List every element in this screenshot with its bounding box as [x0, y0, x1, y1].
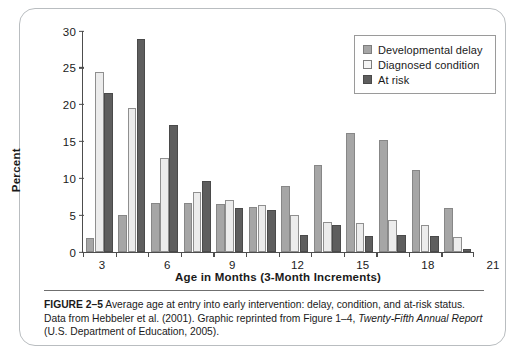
bar-group: 15 — [216, 31, 243, 252]
bar — [444, 208, 453, 252]
bar — [86, 238, 95, 252]
legend-swatch-icon — [363, 60, 372, 69]
bar — [463, 249, 472, 252]
bar — [323, 222, 332, 252]
bar — [128, 108, 137, 252]
bar — [314, 165, 323, 252]
x-axis-tick-mark — [246, 252, 247, 257]
figure-card: Percent 051015202530 3691215182124273033… — [19, 8, 506, 346]
legend-item: At risk — [363, 72, 483, 87]
x-axis-tick-mark — [279, 252, 280, 257]
bar — [249, 207, 258, 252]
bar — [160, 158, 169, 252]
bar — [365, 236, 374, 252]
bar — [137, 39, 146, 252]
legend-item-label: Developmental delay — [378, 44, 483, 56]
y-axis-tick: 25 — [21, 67, 83, 68]
bar — [118, 215, 127, 252]
y-axis-tick: 15 — [21, 141, 83, 142]
x-axis-tick-label: 18 — [421, 259, 434, 271]
bar — [453, 237, 462, 252]
y-axis-tick-label: 25 — [63, 62, 76, 74]
y-axis-tick: 30 — [21, 31, 83, 32]
y-axis-title: Percent — [10, 148, 22, 192]
bar — [421, 225, 430, 252]
bar — [300, 235, 309, 252]
bar — [332, 225, 341, 252]
bar — [169, 125, 178, 252]
bar-group: 21 — [281, 31, 308, 252]
x-axis-tick-label: 3 — [99, 259, 106, 271]
bar-group: 3 — [86, 31, 113, 252]
bar-group: 9 — [151, 31, 178, 252]
x-axis-tick-mark — [181, 252, 182, 257]
bar — [346, 133, 355, 252]
y-axis-tick: 5 — [21, 215, 83, 216]
legend-item: Diagnosed condition — [363, 57, 483, 72]
chart-legend: Developmental delayDiagnosed conditionAt… — [354, 35, 496, 94]
bar — [356, 223, 365, 252]
legend-swatch-icon — [363, 45, 372, 54]
bar — [388, 220, 397, 252]
x-axis-tick-label: 9 — [229, 259, 236, 271]
bar — [95, 72, 104, 252]
x-axis-tick-mark — [344, 252, 345, 257]
x-axis-tick-mark — [148, 252, 149, 257]
figure-number: FIGURE 2–5 — [44, 299, 103, 310]
caption-divider — [44, 290, 484, 291]
y-axis-tick-label: 30 — [63, 25, 76, 37]
chart-region: Percent 051015202530 3691215182124273033… — [20, 13, 507, 283]
x-axis-tick-mark — [213, 252, 214, 257]
x-axis-tick-mark — [311, 252, 312, 257]
x-axis-tick-label: 6 — [164, 259, 171, 271]
x-axis-tick-mark — [473, 252, 474, 257]
legend-swatch-icon — [363, 75, 372, 84]
x-axis-tick-label: 15 — [356, 259, 369, 271]
x-axis-tick-mark — [376, 252, 377, 257]
bar — [151, 203, 160, 252]
bar — [258, 205, 267, 252]
bar — [225, 200, 234, 252]
y-axis-tick-label: 0 — [69, 246, 76, 258]
y-axis-tick-label: 10 — [63, 172, 76, 184]
y-axis-tick: 10 — [21, 178, 83, 179]
bar — [412, 170, 421, 252]
y-axis-tick: 20 — [21, 104, 83, 105]
caption-tail: (U.S. Department of Education, 2005). — [44, 326, 219, 337]
y-axis-tick: 0 — [21, 252, 83, 253]
x-axis-tick-mark — [83, 252, 84, 257]
bar — [235, 208, 244, 252]
x-axis-tick-label: 12 — [291, 259, 304, 271]
figure-caption: FIGURE 2–5 Average age at entry into ear… — [44, 298, 488, 339]
bar — [193, 192, 202, 252]
bar — [184, 203, 193, 252]
bar — [267, 210, 276, 252]
y-axis-tick-label: 20 — [63, 99, 76, 111]
caption-source-title: Twenty-Fifth Annual Report — [358, 313, 482, 324]
bar — [281, 186, 290, 252]
bar — [104, 93, 113, 252]
x-axis-tick-mark — [116, 252, 117, 257]
x-axis-title: Age in Months (3-Month Increments) — [82, 271, 474, 283]
legend-item: Developmental delay — [363, 42, 483, 57]
y-axis-tick-label: 15 — [63, 136, 76, 148]
bar — [290, 215, 299, 252]
legend-item-label: Diagnosed condition — [378, 59, 480, 71]
x-axis-tick-mark — [409, 252, 410, 257]
y-axis-tick-label: 5 — [69, 209, 76, 221]
bar-group: 6 — [118, 31, 145, 252]
bar-group: 12 — [184, 31, 211, 252]
bar-group: 18 — [249, 31, 276, 252]
bar — [430, 236, 439, 252]
bar — [202, 181, 211, 252]
x-axis-tick-mark — [441, 252, 442, 257]
bar — [216, 204, 225, 252]
x-axis-tick-label: 21 — [486, 259, 499, 271]
bar — [379, 140, 388, 252]
bar — [397, 235, 406, 252]
bar-group: 24 — [314, 31, 341, 252]
legend-item-label: At risk — [378, 74, 409, 86]
